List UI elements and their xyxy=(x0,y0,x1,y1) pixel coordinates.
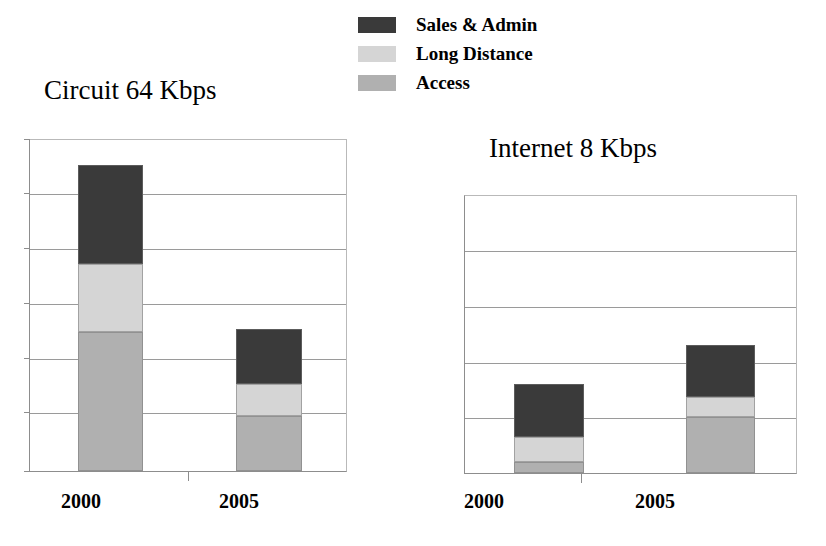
x-axis-label-2000: 2000 xyxy=(443,490,525,512)
x-axis-label-2005: 2005 xyxy=(614,490,696,512)
bar-segment-long-distance xyxy=(236,384,302,416)
bar-segment-sales-admin xyxy=(686,345,755,397)
bar-segment-access xyxy=(686,417,755,473)
y-axis-tick xyxy=(24,193,30,194)
bar-internet-2005 xyxy=(686,345,755,473)
plot-area-circuit xyxy=(29,139,347,472)
y-axis-tick xyxy=(24,303,30,304)
bar-segment-long-distance xyxy=(78,264,143,332)
x-axis-label-2000: 2000 xyxy=(40,490,122,512)
y-axis-tick xyxy=(24,358,30,359)
plot-area-internet xyxy=(464,195,797,474)
chart-circuit-64kbps: Circuit 64 Kbps 2000 2005 xyxy=(0,0,400,546)
bar-circuit-2005 xyxy=(236,329,302,471)
bar-segment-access xyxy=(514,462,584,473)
gridline xyxy=(465,251,796,252)
x-axis-tick xyxy=(188,472,189,481)
x-axis-tick xyxy=(581,474,582,483)
y-axis-tick xyxy=(24,248,30,249)
y-axis-tick xyxy=(24,412,30,413)
chart-internet-8kbps: Internet 8 Kbps 2000 2005 xyxy=(400,0,826,546)
bar-segment-access xyxy=(78,332,143,471)
chart-title-circuit: Circuit 64 Kbps xyxy=(44,75,217,105)
bar-segment-long-distance xyxy=(514,437,584,462)
bar-segment-access xyxy=(236,416,302,471)
x-axis-label-2005: 2005 xyxy=(198,490,280,512)
bar-circuit-2000 xyxy=(78,165,143,471)
chart-title-internet: Internet 8 Kbps xyxy=(489,133,657,163)
bar-internet-2000 xyxy=(514,384,584,473)
bar-segment-long-distance xyxy=(686,397,755,417)
gridline xyxy=(465,307,796,308)
bar-segment-sales-admin xyxy=(514,384,584,437)
bar-segment-sales-admin xyxy=(78,165,143,264)
bar-segment-sales-admin xyxy=(236,329,302,384)
y-axis-tick xyxy=(24,471,30,472)
y-axis-tick xyxy=(24,139,30,140)
